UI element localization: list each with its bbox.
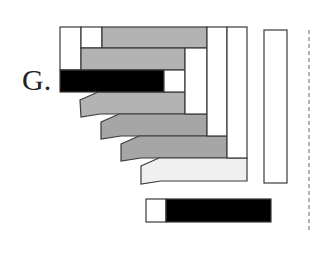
black-bar-white-cap xyxy=(164,70,185,92)
block-diagram xyxy=(0,0,326,257)
slanted-gray-bar-1 xyxy=(80,92,185,117)
top-gray-bar xyxy=(102,27,207,48)
right-tall-white-bar xyxy=(264,30,287,183)
white-column-3 xyxy=(227,27,247,158)
top-left-white-cell xyxy=(60,27,81,70)
slanted-light-bar xyxy=(141,158,247,184)
slanted-gray-bar-2 xyxy=(101,114,207,139)
black-bar xyxy=(60,70,164,92)
bottom-white-cell xyxy=(146,199,166,222)
bottom-black-bar xyxy=(166,199,271,222)
white-column-2 xyxy=(207,27,227,136)
top-second-white-cell xyxy=(81,27,102,48)
white-column-1 xyxy=(185,48,207,114)
slanted-gray-bar-3 xyxy=(121,136,227,161)
second-gray-bar xyxy=(81,48,185,70)
